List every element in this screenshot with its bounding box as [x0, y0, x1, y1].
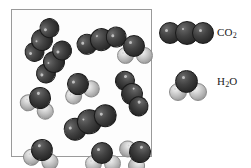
oxygen-atom	[91, 142, 113, 164]
oxygen-atom	[123, 35, 145, 57]
legend-label-co2-base: CO	[217, 26, 233, 38]
legend-label-co2: CO2	[217, 26, 237, 40]
legend-label-h2o: H2O	[217, 75, 238, 89]
legend-label-h2o-base-2: O	[229, 75, 237, 87]
legend-label-co2-sub: 2	[233, 31, 237, 40]
legend: CO2 H2O	[160, 9, 251, 157]
molecule-container-box	[11, 9, 152, 157]
molecular-diagram-figure: CO2 H2O	[0, 0, 251, 168]
oxygen-atom	[192, 22, 214, 44]
oxygen-atom	[175, 70, 198, 93]
legend-label-h2o-base-1: H	[217, 75, 225, 87]
